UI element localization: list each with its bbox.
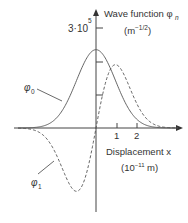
phi0-leader-line bbox=[37, 89, 62, 101]
y-axis-arrow-icon bbox=[93, 9, 99, 16]
x-axis-unit: (10−11 m) bbox=[121, 162, 158, 173]
phi1-label-subscript: 1 bbox=[38, 183, 42, 190]
y-axis-title-subscript: n bbox=[175, 14, 179, 21]
y-tick-label-exponent: 5 bbox=[88, 17, 92, 24]
phi0-label-subscript: 0 bbox=[31, 88, 35, 95]
y-tick-label: 3·10 bbox=[68, 23, 88, 34]
y-axis-title: Wave function φ bbox=[104, 8, 173, 19]
wave-function-chart: 3·10 5 Wave function φ n (m−1/2) 1 2 Dis… bbox=[0, 0, 188, 223]
x-tick-label-1: 1 bbox=[114, 130, 119, 141]
phi1-leader-line bbox=[38, 161, 54, 174]
y-axis-unit: (m−1/2) bbox=[124, 24, 151, 36]
x-axis-title: Displacement x bbox=[106, 146, 171, 157]
phi0-label: φ bbox=[24, 82, 31, 93]
x-tick-label-2: 2 bbox=[134, 130, 139, 141]
phi1-label: φ bbox=[31, 177, 38, 188]
